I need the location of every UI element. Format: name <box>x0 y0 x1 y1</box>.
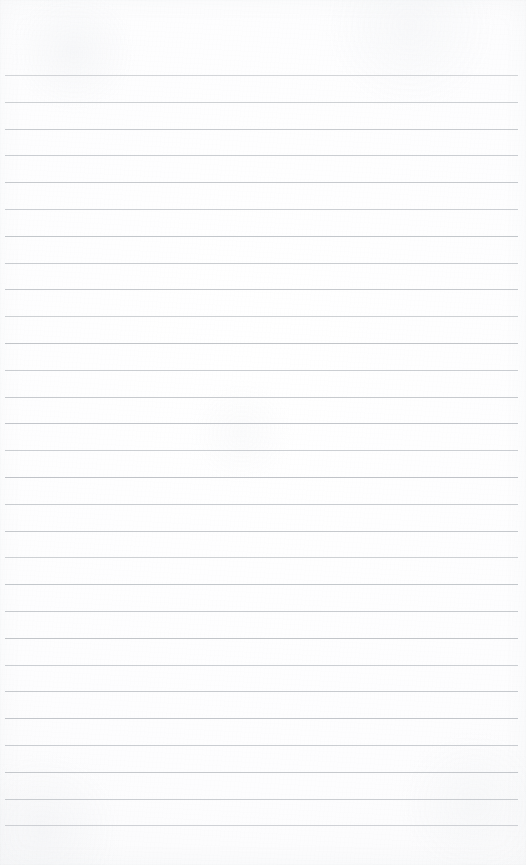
notebook-page: Blank ruled notebook page <box>0 0 526 865</box>
paper-edge-vignette <box>0 0 526 865</box>
